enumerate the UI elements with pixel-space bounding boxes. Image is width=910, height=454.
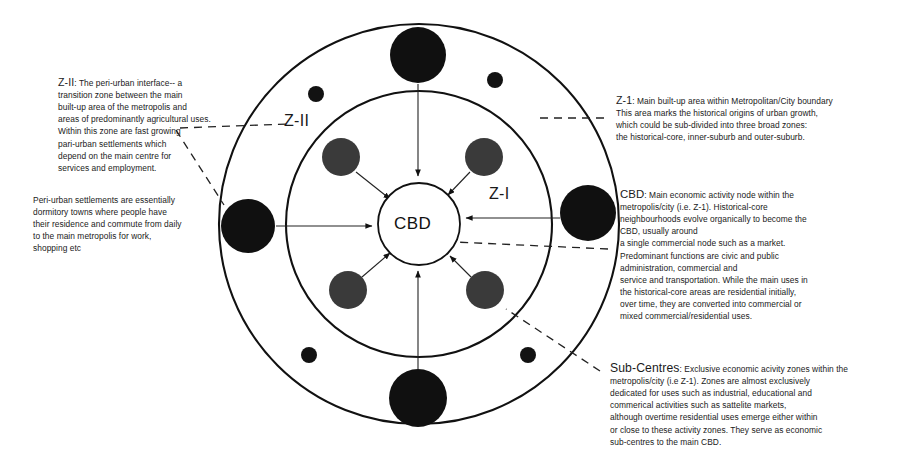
annotation-z1-lead: Z-1 bbox=[616, 94, 632, 106]
annotation-cbd-body: : Main economic activity node within the… bbox=[620, 190, 808, 321]
annotation-sub-centres: Sub-Centres: Exclusive economic acivity … bbox=[610, 350, 910, 448]
annotation-z2-lead: Z-II bbox=[58, 76, 74, 88]
zone-label-z1: Z-I bbox=[489, 185, 509, 203]
node-inner-upper-right bbox=[465, 138, 503, 176]
node-small-upper-right bbox=[487, 72, 503, 88]
annotation-z2: Z-II: The peri-urban interface-- a trans… bbox=[58, 64, 258, 174]
annotation-peri-urban: Peri-urban settlements are essentially d… bbox=[33, 182, 238, 255]
annotation-cbd-lead: CBD bbox=[620, 188, 644, 200]
node-outer-bottom bbox=[389, 369, 447, 427]
annotation-z1-body: : Main built-up area within Metropolitan… bbox=[616, 96, 833, 142]
node-inner-lower-right bbox=[466, 271, 504, 309]
annotation-cbd: CBD: Main economic activity node within … bbox=[620, 176, 906, 322]
annotation-z1: Z-1: Main built-up area within Metropoli… bbox=[616, 82, 908, 143]
node-small-lower-left bbox=[301, 347, 317, 363]
annotation-z2-body: : The peri-urban interface-- a transitio… bbox=[58, 78, 211, 173]
node-outer-top bbox=[390, 27, 446, 83]
annotation-peri-urban-body: Peri-urban settlements are essentially d… bbox=[33, 195, 182, 253]
node-inner-lower-left bbox=[329, 271, 367, 309]
node-outer-right bbox=[560, 185, 616, 241]
zone-label-z2: Z-II bbox=[284, 112, 309, 130]
diagram-canvas: Z-II Z-I CBD Z-II: The peri-urban interf… bbox=[0, 0, 910, 454]
cbd-core-label: CBD bbox=[394, 214, 431, 234]
node-small-upper-left bbox=[308, 86, 324, 102]
node-inner-upper-left bbox=[322, 138, 360, 176]
annotation-sub-centres-lead: Sub-Centres bbox=[610, 361, 680, 375]
annotation-sub-centres-body: : Exclusive economic acivity zones withi… bbox=[610, 364, 848, 447]
node-small-lower-right bbox=[520, 347, 536, 363]
